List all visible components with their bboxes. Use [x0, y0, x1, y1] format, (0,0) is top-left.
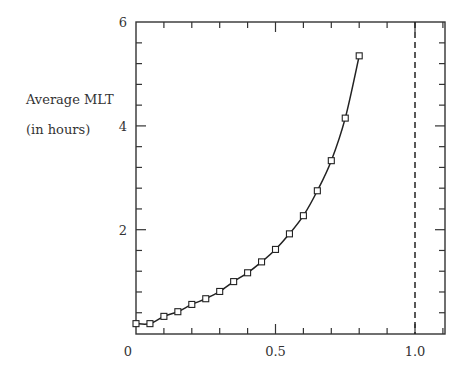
square-marker: [217, 288, 223, 294]
axis-ticks: [136, 22, 445, 334]
x-tick-label: 0.5: [265, 344, 286, 359]
x-tick-label: 1.0: [405, 344, 426, 359]
x-tick-label: 0: [124, 344, 132, 359]
square-marker: [231, 279, 237, 285]
line-chart: 00.51.0246: [0, 0, 470, 375]
square-marker: [175, 309, 181, 315]
square-marker: [161, 313, 167, 319]
series-line: [136, 56, 359, 324]
square-marker: [328, 158, 334, 164]
square-marker: [133, 321, 139, 327]
y-tick-label: 2: [119, 223, 127, 238]
square-marker: [273, 246, 279, 252]
axis-tick-labels: 00.51.0246: [119, 15, 426, 359]
square-marker: [147, 321, 153, 327]
square-marker: [259, 259, 265, 265]
y-tick-label: 4: [119, 119, 127, 134]
square-marker: [314, 188, 320, 194]
square-marker: [286, 231, 292, 237]
square-marker: [300, 213, 306, 219]
data-series: [133, 53, 362, 327]
plot-frame: [136, 22, 445, 334]
square-marker: [342, 115, 348, 121]
square-marker: [203, 296, 209, 302]
square-marker: [356, 53, 362, 59]
y-tick-label: 6: [119, 15, 127, 30]
square-marker: [189, 301, 195, 307]
square-marker: [245, 270, 251, 276]
